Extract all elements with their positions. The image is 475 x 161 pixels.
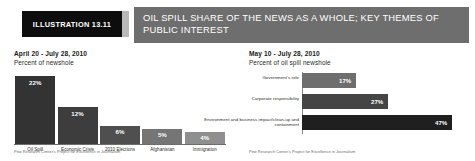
vertical-bar: 12% <box>58 107 98 144</box>
header-divider-tab <box>122 11 129 37</box>
left-chart-panel: April 20 - July 28, 2010 Percent of news… <box>0 45 240 161</box>
vertical-bar-value: 22% <box>29 79 42 86</box>
figure-title-bar: OIL SPILL SHARE OF THE NEWS AS A WHOLE; … <box>134 7 469 43</box>
vertical-bar: 6% <box>100 126 140 145</box>
vertical-bar-value: 12% <box>71 110 84 117</box>
horizontal-bar-value: 27% <box>371 98 384 105</box>
horizontal-bar-value: 47% <box>435 119 448 126</box>
horizontal-bar-category-label: Environment and business impact/clean-up… <box>187 117 299 128</box>
vertical-bar-value: 5% <box>158 131 167 138</box>
figure-header: ILLUSTRATION 13.11 OIL SPILL SHARE OF TH… <box>0 0 475 45</box>
vertical-bar-value: 4% <box>200 134 209 141</box>
horizontal-bar-category-label: Government's role <box>187 75 299 80</box>
right-chart-footnote: Pew Research Center's Project for Excell… <box>249 149 355 154</box>
right-chart-subtitle: Percent of oil spill newshole <box>249 59 331 66</box>
horizontal-bar: 27% <box>302 94 388 109</box>
right-chart-panel: May 10 - July 28, 2010 Percent of oil sp… <box>240 45 475 161</box>
vertical-bar: 4% <box>185 132 225 144</box>
vertical-bar: 22% <box>15 76 55 144</box>
illustration-figure: ILLUSTRATION 13.11 OIL SPILL SHARE OF TH… <box>0 0 475 161</box>
horizontal-bar: 17% <box>302 73 356 88</box>
horizontal-bar-category-label: Corporate responsibility <box>187 96 299 101</box>
left-chart-baseline <box>14 144 226 145</box>
left-chart-footnote: Pew Research Center's Project for Excell… <box>14 149 120 154</box>
vertical-bar-category-label: Immigration <box>184 147 226 152</box>
vertical-bar-value: 6% <box>115 128 124 135</box>
illustration-number-label: ILLUSTRATION 13.11 <box>33 20 111 29</box>
vertical-bar-category-label: Afghanistan <box>141 147 183 152</box>
horizontal-bar: 47% <box>302 115 452 130</box>
horizontal-bar-chart <box>240 72 475 146</box>
illustration-number-box: ILLUSTRATION 13.11 <box>22 11 122 37</box>
horizontal-bar-value: 17% <box>339 77 352 84</box>
left-chart-subtitle: Percent of newshole <box>14 59 74 66</box>
figure-title: OIL SPILL SHARE OF THE NEWS AS A WHOLE; … <box>143 12 462 35</box>
left-chart-title: April 20 - July 28, 2010 <box>14 50 87 57</box>
vertical-bar: 5% <box>142 129 182 144</box>
right-chart-title: May 10 - July 28, 2010 <box>249 50 320 57</box>
